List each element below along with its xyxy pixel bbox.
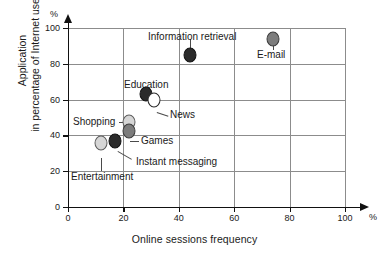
x-tick-label-80: 80: [285, 214, 295, 223]
x-tick-label-0: 0: [65, 214, 70, 223]
x-tick-40: [179, 207, 180, 212]
gridline-x-60: [234, 28, 235, 207]
x-axis: [68, 207, 362, 208]
y-axis-unit: %: [50, 10, 58, 19]
data-point-email[interactable]: [267, 31, 280, 46]
y-tick-60: [63, 100, 68, 101]
data-label-shopping: Shopping: [73, 117, 115, 127]
x-tick-label-40: 40: [174, 214, 184, 223]
y-axis-title: Application in percentage of Internet us…: [16, 0, 41, 151]
gridline-y-80: [68, 64, 345, 65]
x-tick-label-60: 60: [229, 214, 239, 223]
data-label-games: Games: [141, 136, 173, 146]
x-tick-80: [290, 207, 291, 212]
data-label-email: E-mail: [257, 50, 285, 60]
y-axis-title-line2: in percentage of Internet users: [28, 0, 41, 151]
data-point-information-retrieval[interactable]: [183, 47, 196, 62]
data-label-news: News: [170, 110, 195, 120]
y-axis: [68, 22, 69, 207]
gridline-y-60: [68, 100, 345, 101]
leader-entertainment: [101, 158, 102, 171]
y-axis-title-line1: Application: [16, 0, 29, 151]
y-axis-arrow-icon: [64, 14, 72, 23]
x-axis-title: Online sessions frequency: [0, 233, 389, 245]
plot-right-edge: [345, 28, 346, 207]
gridline-y-100: [68, 28, 345, 29]
data-label-education: Education: [124, 80, 168, 90]
data-point-news[interactable]: [147, 92, 160, 107]
y-tick-100: [63, 28, 68, 29]
y-tick-20: [63, 171, 68, 172]
y-tick-40: [63, 135, 68, 136]
scatter-chart: 0 20 40 60 80 100 % 0 20 40 60 80 100 % …: [0, 0, 389, 267]
x-tick-label-20: 20: [118, 214, 128, 223]
leader-games: [130, 141, 139, 142]
data-label-entertainment: Entertainment: [71, 172, 133, 182]
x-tick-60: [234, 207, 235, 212]
x-tick-0: [68, 207, 69, 212]
x-tick-20: [123, 207, 124, 212]
y-tick-80: [63, 64, 68, 65]
y-tick-label-0: 0: [34, 202, 60, 211]
data-label-information-retrieval: Information retrieval: [148, 32, 236, 42]
y-tick-label-20: 20: [34, 167, 60, 176]
x-axis-arrow-icon: [360, 203, 369, 211]
data-point-entertainment[interactable]: [95, 136, 108, 151]
gridline-x-80: [290, 28, 291, 207]
data-label-instant-messaging: Instant messaging: [136, 157, 217, 167]
data-point-games[interactable]: [123, 123, 136, 138]
x-tick-100: [345, 207, 346, 212]
x-axis-unit: %: [369, 213, 377, 222]
data-point-instant-messaging[interactable]: [109, 133, 122, 148]
x-tick-label-100: 100: [337, 214, 352, 223]
